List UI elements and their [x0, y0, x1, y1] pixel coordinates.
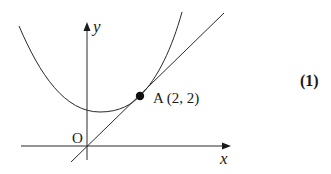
origin-label: O [72, 131, 83, 146]
equation-number: (1) [300, 73, 319, 89]
point-a-label: A (2, 2) [153, 91, 199, 106]
x-axis-label: x [220, 150, 228, 167]
y-axis-arrow-icon [84, 22, 91, 31]
point-a-marker [136, 92, 144, 100]
diagram-canvas [0, 0, 331, 174]
y-axis-label: y [93, 18, 101, 35]
